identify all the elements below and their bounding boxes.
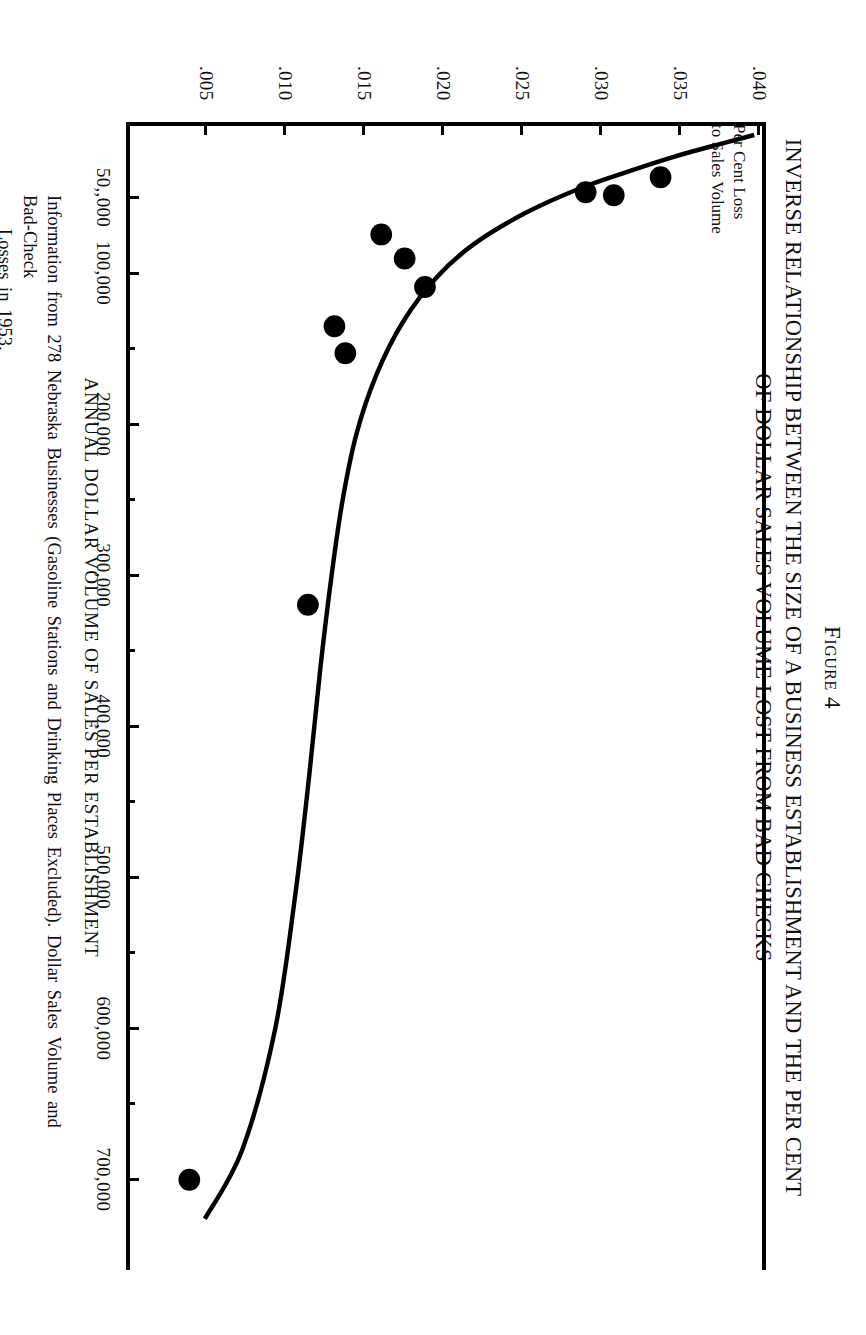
y-axis-tick-label: .005 [195, 66, 217, 100]
y-axis-tick-label: .020 [432, 66, 454, 100]
y-axis-tick-label: .030 [590, 66, 612, 100]
x-axis-tick [126, 574, 139, 577]
y-axis-tick [204, 122, 207, 135]
x-axis-minor-tick [126, 347, 135, 350]
x-axis-tick [126, 196, 139, 199]
x-axis-minor-tick [126, 498, 135, 501]
y-axis-tick [362, 122, 365, 135]
x-axis-title: ANNUAL DOLLAR VOLUME OF SALES PER ESTABL… [80, 0, 102, 1335]
axis-layer: 50,,000100,000200,000300,000400,000500,0… [0, 0, 866, 1335]
x-axis-tick [126, 876, 139, 879]
x-axis-minor-tick [126, 800, 135, 803]
y-axis-tick-label: .040 [748, 66, 770, 100]
y-axis-tick [441, 122, 444, 135]
y-axis-tick [757, 122, 760, 135]
x-axis-minor-tick [126, 1102, 135, 1105]
x-axis-tick [126, 423, 139, 426]
source-note: Information from 278 Nebraska Businesses… [0, 195, 66, 1155]
y-axis-tick-label: .035 [669, 66, 691, 100]
y-axis-tick-label: .015 [353, 66, 375, 100]
figure-canvas: Figure 4 INVERSE RELATIONSHIP BETWEEN TH… [0, 0, 866, 1335]
x-axis-tick [126, 1027, 139, 1030]
y-axis-tick [283, 122, 286, 135]
x-axis-minor-tick [126, 649, 135, 652]
x-axis-minor-tick [126, 951, 135, 954]
y-axis-tick-label: .025 [511, 66, 533, 100]
source-note-line-1: Information from 278 Nebraska Businesses… [20, 195, 64, 1128]
x-axis-tick [126, 1178, 139, 1181]
x-axis-tick [126, 272, 139, 275]
y-axis-tick [520, 122, 523, 135]
y-axis-tick [599, 122, 602, 135]
y-axis-tick-label: .010 [274, 66, 296, 100]
source-note-line-2: Losses in 1953. [0, 195, 17, 1155]
x-axis-tick [126, 725, 139, 728]
y-axis-tick [678, 122, 681, 135]
